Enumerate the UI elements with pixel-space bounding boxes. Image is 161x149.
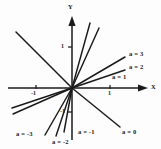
curve-label-a-3: a = 3 <box>129 51 143 58</box>
curve-label-a-neg3: a = -3 <box>16 131 33 138</box>
curve-label-a-neg2: a = -2 <box>52 139 69 146</box>
line-a-0 <box>72 88 120 127</box>
curve-label-a-0: a = 0 <box>122 129 136 136</box>
curve-label-a-1: a = 1 <box>112 74 126 81</box>
curve-label-a-2: a = 2 <box>129 64 143 71</box>
plot-canvas <box>0 0 161 149</box>
y-tick-label-neg1: -1 <box>60 108 65 114</box>
line-family <box>12 23 125 136</box>
x-tick-label-neg1: -1 <box>31 90 36 96</box>
line-upper-left <box>16 32 72 88</box>
y-tick-label-1: 1 <box>61 43 64 49</box>
x-tick-label-1: 1 <box>108 90 111 96</box>
line-family-figure: Y X 1 -1 -1 1 a = 3 a = 2 a = 1 a = 0 a … <box>0 0 161 149</box>
y-axis-label: Y <box>68 4 73 11</box>
curve-label-a-neg1: a = -1 <box>78 129 95 136</box>
x-axis-label: X <box>151 84 156 91</box>
